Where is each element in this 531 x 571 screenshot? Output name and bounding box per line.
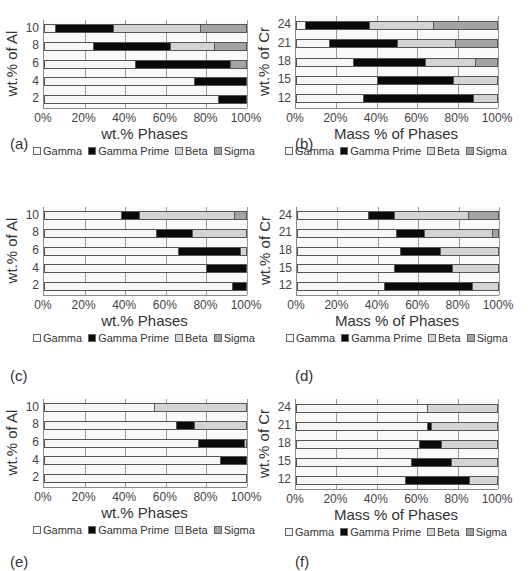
- gridline: [499, 207, 500, 295]
- legend-item-gamma-prime: Gamma Prime: [88, 332, 169, 344]
- legend-label: Gamma Prime: [350, 145, 421, 157]
- x-tick-label: 40%: [356, 492, 396, 506]
- y-tick-label: 6: [21, 56, 39, 70]
- y-tick-label: 12: [274, 278, 292, 292]
- segment-gamma: [297, 59, 353, 66]
- y-tick-label: 4: [21, 453, 39, 467]
- y-tick-label: 18: [274, 243, 292, 257]
- segment-gamma: [297, 95, 363, 102]
- y-tick-label: 12: [273, 472, 291, 486]
- legend-swatch-icon: [214, 526, 222, 534]
- legend-label: Sigma: [224, 332, 255, 344]
- y-axis-label: wt.% of Al: [3, 393, 20, 493]
- stacked-bar-18: [296, 58, 498, 67]
- segment-beta: [394, 212, 468, 219]
- stacked-bar-12: [296, 476, 498, 485]
- x-axis-label: Mass % of Phases: [296, 312, 498, 329]
- stacked-bar-6: [44, 247, 247, 256]
- legend-item-beta: Beta: [175, 332, 208, 344]
- stacked-bar-18: [296, 440, 498, 449]
- segment-gamma-prime: [405, 477, 469, 484]
- x-axis-label: wt.% Phases: [43, 312, 246, 329]
- panel-label: (f): [295, 553, 309, 570]
- x-tick-label: 20%: [64, 111, 104, 125]
- x-axis-label: wt.% Phases: [43, 504, 246, 521]
- segment-gamma-prime: [206, 265, 246, 272]
- x-tick-label: 60%: [396, 492, 436, 506]
- legend-label: Beta: [437, 145, 460, 157]
- stacked-bar-24: [296, 21, 498, 30]
- x-tick-label: 40%: [104, 111, 144, 125]
- segment-gamma: [45, 457, 220, 464]
- stacked-bar-12: [297, 282, 499, 291]
- segment-gamma-prime: [396, 230, 424, 237]
- segment-gamma-prime: [363, 95, 473, 102]
- x-tick-label: 60%: [397, 298, 437, 312]
- segment-beta: [244, 440, 246, 447]
- segment-beta: [441, 441, 497, 448]
- segment-sigma: [433, 22, 497, 29]
- legend-item-gamma-prime: Gamma Prime: [88, 524, 169, 536]
- x-axis-label: Mass % of Phases: [295, 506, 497, 523]
- y-tick-label: 21: [274, 225, 292, 239]
- legend-item-gamma: Gamma: [285, 526, 334, 538]
- segment-gamma: [45, 475, 246, 482]
- y-tick-label: 8: [21, 417, 39, 431]
- x-tick-label: 0%: [23, 490, 63, 504]
- y-tick-label: 2: [21, 91, 39, 105]
- plot-area: [295, 16, 498, 109]
- x-tick-label: 80%: [437, 492, 477, 506]
- x-tick-label: 100%: [477, 111, 517, 125]
- y-tick-label: 24: [273, 400, 291, 414]
- panel-label: (b): [295, 135, 313, 152]
- legend: GammaGamma PrimeBetaSigma: [33, 145, 255, 157]
- legend-label: Gamma Prime: [351, 332, 422, 344]
- stacked-bar-21: [297, 229, 499, 238]
- segment-gamma-prime: [178, 248, 240, 255]
- x-tick-label: 20%: [64, 490, 104, 504]
- stacked-bar-6: [44, 439, 247, 448]
- stacked-bar-15: [296, 76, 498, 85]
- legend: GammaGamma PrimeBetaSigma: [285, 145, 507, 157]
- y-tick-label: 15: [273, 72, 291, 86]
- legend-swatch-icon: [340, 147, 348, 155]
- segment-gamma: [45, 422, 176, 429]
- y-tick-label: 2: [21, 278, 39, 292]
- legend-swatch-icon: [285, 528, 293, 536]
- y-tick-label: 10: [21, 400, 39, 414]
- legend-item-sigma: Sigma: [214, 145, 255, 157]
- segment-beta: [473, 95, 497, 102]
- legend-label: Gamma: [43, 332, 82, 344]
- legend-item-gamma: Gamma: [286, 332, 335, 344]
- x-tick-label: 40%: [104, 298, 144, 312]
- segment-gamma-prime: [353, 59, 425, 66]
- segment-sigma: [234, 212, 246, 219]
- segment-sigma: [468, 212, 498, 219]
- legend-label: Gamma Prime: [98, 145, 169, 157]
- stacked-bar-10: [44, 24, 247, 33]
- segment-sigma: [455, 40, 497, 47]
- stacked-bar-15: [297, 264, 499, 273]
- legend-swatch-icon: [340, 528, 348, 536]
- x-tick-label: 0%: [23, 111, 63, 125]
- plot-area: [295, 399, 498, 490]
- x-tick-label: 0%: [23, 298, 63, 312]
- x-tick-label: 0%: [275, 492, 315, 506]
- chart-panel-d: 12151821240%20%40%60%80%100%Mass % of Ph…: [265, 195, 530, 385]
- legend-swatch-icon: [33, 334, 41, 342]
- segment-beta: [397, 40, 455, 47]
- segment-gamma: [297, 441, 419, 448]
- segment-gamma: [298, 212, 368, 219]
- legend-item-gamma-prime: Gamma Prime: [340, 526, 421, 538]
- segment-gamma: [297, 423, 427, 430]
- legend-item-beta: Beta: [175, 524, 208, 536]
- stacked-bar-21: [296, 422, 498, 431]
- x-tick-label: 20%: [315, 111, 355, 125]
- legend-swatch-icon: [88, 147, 96, 155]
- segment-gamma-prime: [384, 283, 472, 290]
- segment-gamma-prime: [121, 212, 139, 219]
- y-axis-label: wt.% of Cr: [255, 394, 272, 494]
- y-tick-label: 10: [21, 21, 39, 35]
- segment-beta: [192, 230, 246, 237]
- stacked-bar-2: [44, 474, 247, 483]
